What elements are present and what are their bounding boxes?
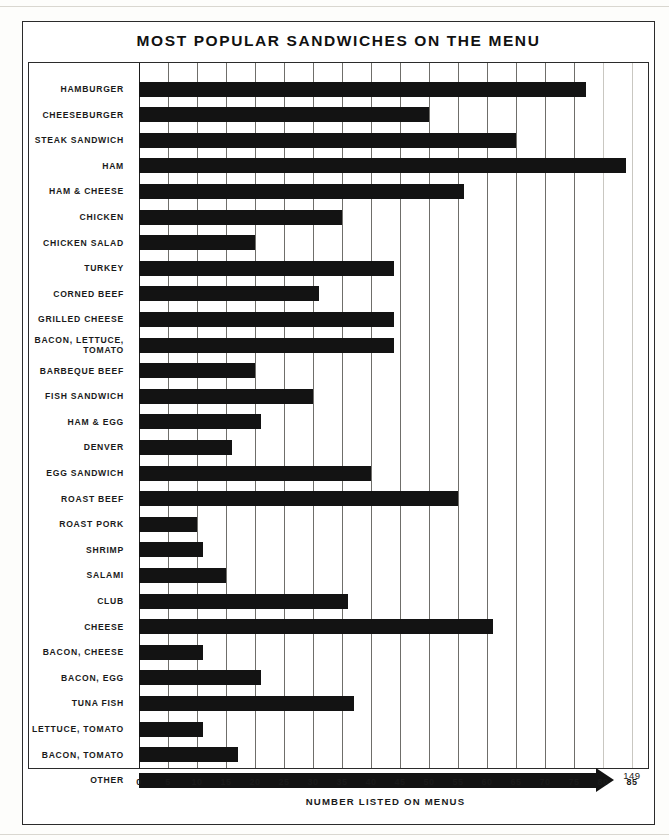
- x-tick-label-45: 45: [394, 777, 405, 787]
- x-tick-label-70: 70: [539, 777, 550, 787]
- x-tick-label-85: 85: [626, 777, 637, 787]
- x-tick-label-50: 50: [423, 777, 434, 787]
- x-tick-label-40: 40: [365, 777, 376, 787]
- x-tick-label-60: 60: [481, 777, 492, 787]
- x-axis: NUMBER LISTED ON MENUS 05101520253035404…: [0, 0, 669, 840]
- x-tick-label-0: 0: [136, 777, 142, 787]
- x-tick-label-15: 15: [220, 777, 231, 787]
- x-tick-label-20: 20: [249, 777, 260, 787]
- x-tick-label-80: 80: [597, 777, 608, 787]
- x-tick-label-10: 10: [191, 777, 202, 787]
- x-tick-label-65: 65: [510, 777, 521, 787]
- x-tick-label-55: 55: [452, 777, 463, 787]
- x-tick-label-5: 5: [165, 777, 171, 787]
- chart-page: MOST POPULAR SANDWICHES ON THE MENU HAMB…: [0, 0, 669, 840]
- x-tick-label-30: 30: [307, 777, 318, 787]
- x-tick-label-35: 35: [336, 777, 347, 787]
- x-tick-label-75: 75: [568, 777, 579, 787]
- x-axis-title: NUMBER LISTED ON MENUS: [139, 796, 632, 807]
- x-tick-label-25: 25: [278, 777, 289, 787]
